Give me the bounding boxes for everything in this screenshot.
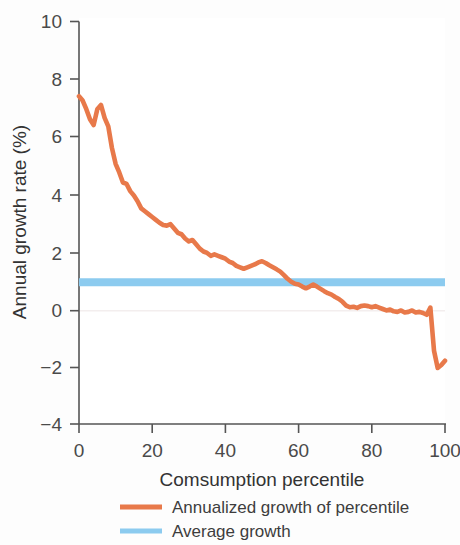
- legend-label-average-growth: Average growth: [172, 522, 291, 541]
- y-axis-title: Annual growth rate (%): [9, 125, 30, 319]
- growth-rate-line-chart: 10 8 6 4 2 0 −2 −4 0 20 40 60 80 100 Ann…: [0, 0, 460, 545]
- x-tick-label-80: 80: [361, 440, 382, 461]
- y-tick-label-minus2: −2: [40, 357, 62, 378]
- plot-area-background: [79, 18, 445, 424]
- x-tick-label-40: 40: [215, 440, 236, 461]
- y-tick-label-6: 6: [51, 126, 62, 147]
- x-tick-label-60: 60: [288, 440, 309, 461]
- legend-label-annualized-growth: Annualized growth of percentile: [172, 498, 409, 517]
- y-tick-label-10: 10: [41, 11, 62, 32]
- x-axis-ticks: [79, 424, 445, 433]
- y-tick-label-4: 4: [51, 185, 62, 206]
- x-axis-title: Comsumption percentile: [160, 469, 365, 490]
- y-tick-label-minus4: −4: [40, 414, 62, 435]
- y-axis-ticks: [70, 22, 79, 425]
- x-tick-label-100: 100: [429, 440, 460, 461]
- chart-legend: Annualized growth of percentile Average …: [120, 498, 409, 541]
- x-tick-label-0: 0: [74, 440, 85, 461]
- y-tick-label-2: 2: [51, 243, 62, 264]
- x-tick-label-20: 20: [142, 440, 163, 461]
- y-tick-label-8: 8: [51, 69, 62, 90]
- y-tick-label-0: 0: [51, 300, 62, 321]
- chart-figure: 10 8 6 4 2 0 −2 −4 0 20 40 60 80 100 Ann…: [0, 0, 460, 545]
